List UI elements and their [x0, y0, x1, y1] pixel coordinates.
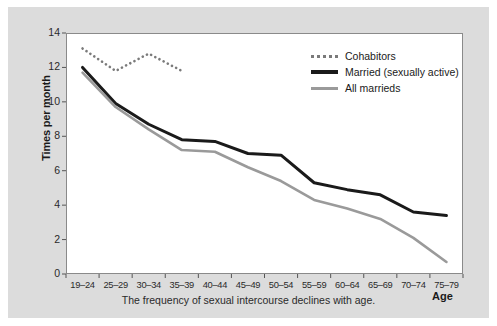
figure-container: Times per month 02468101214 19–2425–2930…: [8, 7, 489, 318]
legend-item-all-marrieds: All marrieds: [311, 80, 459, 95]
y-tick-label: 10: [32, 95, 60, 107]
solid-black-line-swatch: [311, 67, 338, 77]
legend-label: Married (sexually active): [345, 66, 459, 78]
legend-label: All marrieds: [345, 82, 400, 94]
figure-caption: The frequency of sexual intercourse decl…: [8, 294, 489, 306]
x-tick-label: 75–79: [424, 280, 468, 290]
chart-legend: Cohabitors Married (sexually active) All…: [311, 48, 459, 96]
legend-label: Cohabitors: [345, 50, 396, 62]
y-tick-label: 0: [32, 267, 60, 279]
series-line: [83, 73, 447, 262]
y-tick-label: 6: [32, 164, 60, 176]
solid-gray-line-swatch: [311, 83, 338, 93]
y-tick-label: 12: [32, 60, 60, 72]
series-line: [83, 48, 182, 70]
y-tick-label: 14: [32, 26, 60, 38]
y-tick-label: 2: [32, 233, 60, 245]
legend-item-cohabitors: Cohabitors: [311, 48, 459, 63]
y-tick-label: 8: [32, 129, 60, 141]
legend-item-married-sexually-active: Married (sexually active): [311, 64, 459, 79]
y-tick-label: 4: [32, 198, 60, 210]
dotted-line-swatch: [311, 51, 338, 61]
